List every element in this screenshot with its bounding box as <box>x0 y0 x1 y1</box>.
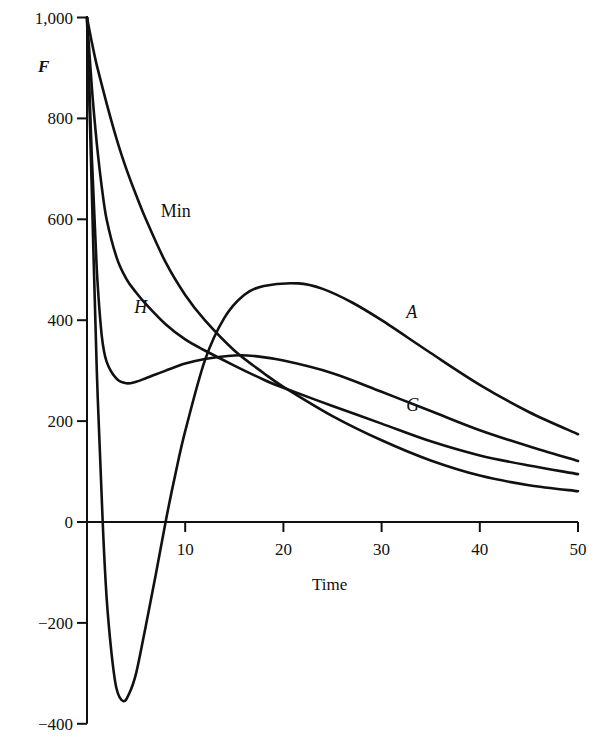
series-label-a: A <box>405 302 418 322</box>
x-tick-label: 30 <box>373 540 390 559</box>
y-tick-label: 0 <box>65 513 74 532</box>
series-curve-h <box>87 18 578 475</box>
y-tick-label: −200 <box>38 614 73 633</box>
y-tick-label: 200 <box>48 412 74 431</box>
series-curve-g <box>87 18 578 462</box>
x-tick-label: 50 <box>570 540 587 559</box>
series-curve-a <box>87 18 578 702</box>
x-tick-label: 20 <box>275 540 292 559</box>
series-label-h: H <box>133 297 148 317</box>
y-tick-label: 1,000 <box>35 9 73 28</box>
y-tick-label: 800 <box>48 109 74 128</box>
y-axis-title: F <box>37 57 50 76</box>
line-chart: 1,0008006004002000−200−400 1020304050 Mi… <box>0 0 594 746</box>
series-curves <box>87 18 578 702</box>
y-tick-label: 600 <box>48 210 74 229</box>
series-label-min: Min <box>161 201 191 221</box>
figure-caption-cropped <box>70 738 590 746</box>
x-axis: 1020304050 <box>77 522 587 559</box>
x-tick-label: 40 <box>471 540 488 559</box>
y-axis: 1,0008006004002000−200−400 <box>35 9 87 734</box>
y-tick-label: 400 <box>48 311 74 330</box>
x-tick-label: 10 <box>177 540 194 559</box>
series-curve-min <box>87 18 578 492</box>
y-tick-label: −400 <box>38 715 73 734</box>
series-label-g: G <box>406 395 419 415</box>
x-axis-title: Time <box>312 575 347 594</box>
